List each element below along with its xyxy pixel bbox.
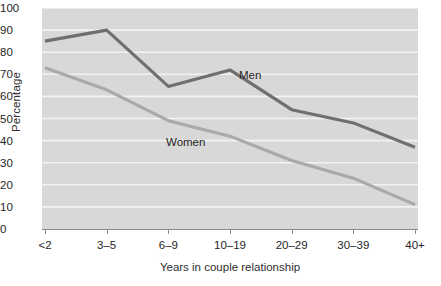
x-tick-mark [353, 229, 354, 234]
x-tick-label: 6–9 [138, 239, 198, 251]
plot-area [42, 8, 418, 229]
y-tick-label: 30 [0, 157, 36, 169]
series-label-men: Men [239, 69, 261, 81]
y-tick-label: 20 [0, 179, 36, 191]
x-tick-mark [415, 229, 416, 234]
x-tick-mark [45, 229, 46, 234]
y-tick-label: 0 [0, 223, 36, 235]
y-tick-label: 10 [0, 201, 36, 213]
x-tick-mark [168, 229, 169, 234]
y-tick-label: 80 [0, 46, 36, 58]
x-tick-label: 40+ [385, 239, 441, 251]
y-tick-label: 70 [0, 68, 36, 80]
x-tick-label: <2 [15, 239, 75, 251]
y-tick-label: 50 [0, 113, 36, 125]
x-tick-label: 10–19 [200, 239, 260, 251]
y-tick-label: 100 [0, 2, 36, 14]
x-tick-mark [292, 229, 293, 234]
y-tick-label: 40 [0, 135, 36, 147]
x-tick-label: 30–39 [323, 239, 383, 251]
y-tick-label: 60 [0, 90, 36, 102]
chart-figure: Percentage 1009080706050403020100 <23–56… [0, 0, 441, 286]
x-tick-mark [230, 229, 231, 234]
x-axis-title: Years in couple relationship [42, 261, 418, 273]
chart-canvas [42, 8, 418, 229]
x-tick-mark [107, 229, 108, 234]
x-tick-label: 20–29 [262, 239, 322, 251]
x-tick-label: 3–5 [77, 239, 137, 251]
series-label-women: Women [166, 136, 205, 148]
y-tick-label: 90 [0, 24, 36, 36]
